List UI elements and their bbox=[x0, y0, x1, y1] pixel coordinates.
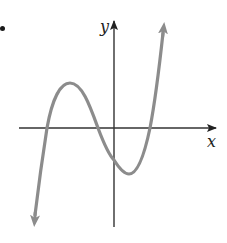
y-axis-label: y bbox=[99, 17, 110, 36]
x-axis-label: x bbox=[207, 132, 216, 151]
curve-arrow-down-icon bbox=[35, 212, 36, 221]
cubic-graph: x y bbox=[0, 0, 227, 243]
curve-arrow-up-icon bbox=[163, 28, 164, 37]
cubic-curve bbox=[35, 33, 163, 215]
